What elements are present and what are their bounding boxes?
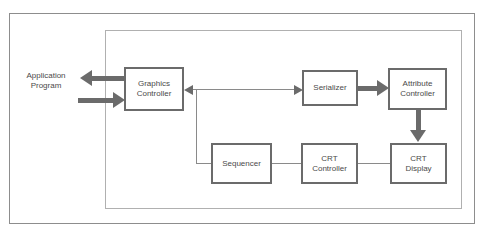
node-crt-controller[interactable]: CRT Controller [301,143,358,184]
node-sequencer-label: Sequencer [222,159,261,169]
attribute-to-display-line [416,110,421,132]
serializer-to-attribute-line [358,86,379,91]
node-serializer-label: Serializer [313,83,346,93]
bus-to-sequencer-vertical [196,90,197,164]
bus-to-sequencer-horizontal [196,163,212,164]
node-attribute-controller-label: Attribute Controller [400,79,435,99]
gc-serializer-bus-arrowhead-left [184,85,193,95]
node-crt-controller-label: CRT Controller [312,154,347,174]
diagram-canvas: Application Program Graphics Controller … [0,0,487,238]
node-sequencer[interactable]: Sequencer [211,143,272,184]
node-crt-display[interactable]: CRT Display [390,143,447,184]
application-program-label: Application Program [16,71,76,91]
node-attribute-controller[interactable]: Attribute Controller [388,68,447,110]
node-crt-display-label: CRT Display [405,154,431,174]
gc-to-app-line [92,76,126,81]
gc-to-app-arrowhead [80,70,92,86]
sequencer-to-crt-controller-line [272,163,302,164]
attribute-to-display-arrowhead [410,130,426,142]
node-graphics-controller[interactable]: Graphics Controller [124,67,184,111]
gc-serializer-bus-line [192,89,296,90]
crt-controller-to-crt-display-line [358,163,391,164]
node-serializer[interactable]: Serializer [302,70,358,106]
node-graphics-controller-label: Graphics Controller [137,79,172,99]
app-to-gc-line [78,98,114,103]
